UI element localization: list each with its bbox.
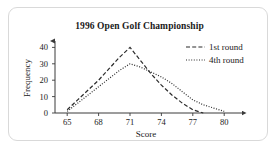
x-tick-label-80: 80 <box>220 117 229 127</box>
x-tick-label-68: 68 <box>94 117 103 127</box>
x-tick-label-74: 74 <box>157 117 166 127</box>
y-axis-title: Frequency <box>22 59 32 97</box>
chart-screenshot: 1996 Open Golf Championship <box>0 0 279 150</box>
y-tick-label-10: 10 <box>40 92 49 102</box>
legend-label-4th-round: 4th round <box>209 55 244 65</box>
y-tick-label-20: 20 <box>40 75 49 85</box>
series-line-1st-round <box>67 47 203 113</box>
x-tick-label-71: 71 <box>126 117 135 127</box>
x-tick-label-65: 65 <box>63 117 72 127</box>
chart-legend: 1st round 4th round <box>186 42 244 65</box>
y-tick-label-40: 40 <box>40 42 49 52</box>
y-tick-label-30: 30 <box>40 59 49 69</box>
x-axis-title: Score <box>136 129 157 139</box>
x-tick-label-77: 77 <box>189 117 198 127</box>
chart-plot-area: 0 10 20 30 40 65 68 71 74 77 80 Score Fr… <box>0 0 279 150</box>
y-tick-label-0: 0 <box>44 108 48 118</box>
legend-label-1st-round: 1st round <box>209 42 243 52</box>
